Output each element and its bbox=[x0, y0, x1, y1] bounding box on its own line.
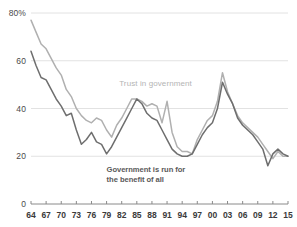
series-line-trust-in-government bbox=[31, 20, 288, 158]
y-tick-label-40: 40 bbox=[0, 104, 26, 114]
series-annotation-trust-in-government: Trust in government bbox=[119, 79, 192, 88]
y-tick-label-80: 80% bbox=[0, 8, 26, 18]
y-tick-label-20: 20 bbox=[0, 151, 26, 161]
x-tick-label-15: 15 bbox=[279, 210, 297, 220]
chart-plot-area bbox=[0, 0, 297, 227]
benefit-annotation-line-2: the benefit of all bbox=[107, 175, 186, 185]
y-tick-label-60: 60 bbox=[0, 56, 26, 66]
series-annotation-government-benefit-of-all: Government is run for the benefit of all bbox=[107, 165, 186, 185]
benefit-annotation-line-1: Government is run for bbox=[107, 165, 186, 175]
chart-container: 020406080% 64677073767982858891949700030… bbox=[0, 0, 297, 227]
y-tick-label-0: 0 bbox=[0, 199, 26, 209]
x-axis bbox=[31, 201, 288, 204]
series-lines bbox=[31, 20, 288, 166]
